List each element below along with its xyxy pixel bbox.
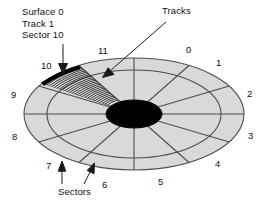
spindle-hub — [106, 100, 162, 128]
sector-number-1: 1 — [216, 57, 221, 68]
surface-callout-line-1: Surface 0 — [22, 6, 64, 18]
surface-callout-label: Surface 0 Track 1 Sector 10 — [22, 6, 64, 41]
sector-number-2: 2 — [247, 88, 252, 99]
surface-callout-line-2: Track 1 — [22, 18, 64, 30]
surface-callout-line-3: Sector 10 — [22, 29, 64, 41]
sector-number-9: 9 — [11, 89, 16, 100]
sector-number-11: 11 — [98, 45, 108, 56]
sector-number-7: 7 — [46, 160, 51, 171]
disk-geometry-figure: Surface 0 Track 1 Sector 10 Tracks Secto… — [0, 0, 269, 206]
tracks-callout-label: Tracks — [162, 5, 191, 17]
sectors-callout-label: Sectors — [58, 186, 91, 198]
sector-number-10: 10 — [41, 60, 52, 71]
sector-number-4: 4 — [215, 158, 220, 169]
sector-number-3: 3 — [248, 130, 253, 141]
sector-number-6: 6 — [102, 179, 107, 190]
sector-number-0: 0 — [186, 44, 191, 55]
sector-number-8: 8 — [12, 131, 17, 142]
sector-number-5: 5 — [158, 176, 163, 187]
